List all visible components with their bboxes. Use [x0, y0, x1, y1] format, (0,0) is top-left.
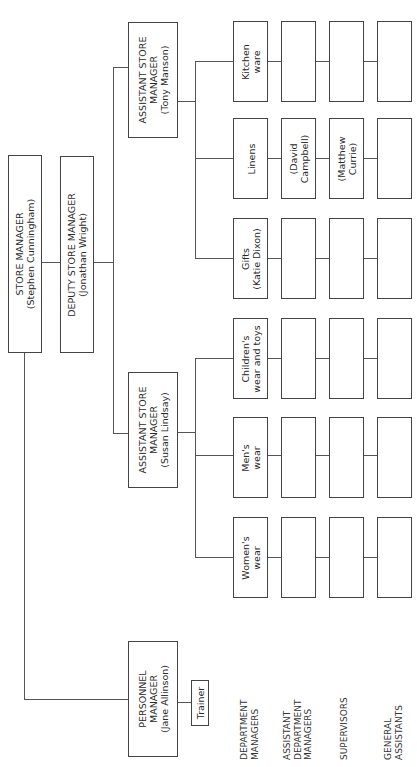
- dept-kitchen-general: [377, 21, 412, 102]
- level-label-line: DEPARTMENT: [239, 700, 250, 760]
- connector-tony-bus: [178, 101, 195, 102]
- susan-line2: MANAGER: [148, 387, 159, 474]
- level-label-line: MANAGERS: [250, 700, 261, 760]
- store-manager-title: STORE MANAGER: [14, 199, 25, 309]
- dept-mens-manager: Men'swear: [233, 417, 268, 498]
- level-label-line: DEPARTMENT: [293, 700, 304, 760]
- supervisor-name-2: Currie): [347, 136, 358, 181]
- dept-label-2: wear: [251, 444, 262, 472]
- dept-gifts-assistant: [281, 218, 316, 299]
- level-label-line: GENERAL: [383, 705, 394, 760]
- branch-linens: [195, 158, 233, 159]
- dept-label-2: (Katie Dixon): [251, 228, 262, 290]
- store-manager-name: (Stephen Cunningham): [25, 199, 36, 309]
- level-label-line: MANAGERS: [303, 700, 314, 760]
- store-manager-box: STORE MANAGER (Stephen Cunningham): [8, 155, 42, 353]
- level-label-department-managers: DEPARTMENT MANAGERS: [239, 700, 260, 760]
- deputy-name: (Jonathan Wright): [77, 193, 88, 317]
- deputy-title: DEPUTY STORE MANAGER: [66, 193, 77, 317]
- dept-gifts-supervisor: [329, 218, 364, 299]
- assistant-name-1: (David: [288, 134, 299, 183]
- dept-childrens-manager: Children'swear and toys: [233, 318, 268, 399]
- connector-store-deputy: [41, 262, 60, 263]
- dept-label-1: Linens: [245, 143, 256, 174]
- branch-mens: [195, 455, 233, 456]
- dept-label-1: Women's: [240, 536, 251, 579]
- level-label-line: SUPERVISORS: [339, 697, 350, 760]
- tony-line2: MANAGER: [148, 37, 159, 124]
- assistant-store-manager-tony-box: ASSISTANT STORE MANAGER (Tony Manson): [128, 22, 178, 138]
- dept-label-2: ware: [251, 44, 262, 80]
- bus-assistant-managers: [113, 67, 114, 434]
- level-label-line: ASSISTANTS: [394, 705, 405, 760]
- connector-bus-susan: [113, 433, 128, 434]
- dept-label-1: Men's: [240, 444, 251, 472]
- connector-store-personnel-h: [24, 699, 128, 700]
- personnel-manager-box: PERSONNEL MANAGER (Jane Allinson): [128, 641, 178, 757]
- dept-womens-manager: Women'swear: [233, 517, 268, 598]
- personnel-name: (Jane Allinson): [159, 665, 170, 733]
- dept-linens-assistant: (DavidCampbell): [281, 118, 316, 199]
- dept-label-1: Gifts: [240, 228, 251, 290]
- connector-deputy-bus: [93, 262, 113, 263]
- level-label-general-assistants: GENERAL ASSISTANTS: [383, 705, 404, 760]
- trainer-box: Trainer: [191, 680, 209, 726]
- dept-label-1: Children's: [240, 325, 251, 392]
- trainer-label: Trainer: [195, 687, 206, 720]
- dept-childrens-assistant: [281, 318, 316, 399]
- dept-childrens-general: [377, 318, 412, 399]
- connector-susan-bus: [178, 432, 195, 433]
- branch-gifts: [195, 258, 233, 259]
- susan-line1: ASSISTANT STORE: [137, 387, 148, 474]
- dept-kitchen-supervisor: [329, 21, 364, 102]
- dept-womens-supervisor: [329, 517, 364, 598]
- dept-mens-assistant: [281, 417, 316, 498]
- dept-linens-supervisor: (MatthewCurrie): [329, 118, 364, 199]
- susan-name: (Susan Lindsay): [159, 387, 170, 474]
- dept-label-2: wear: [251, 536, 262, 579]
- dept-womens-general: [377, 517, 412, 598]
- dept-linens-manager: Linens: [233, 118, 268, 199]
- tony-line1: ASSISTANT STORE: [137, 37, 148, 124]
- connector-bus-tony: [113, 67, 128, 68]
- level-label-supervisors: SUPERVISORS: [339, 697, 350, 760]
- connector-personnel-trainer: [178, 702, 191, 703]
- dept-gifts-manager: Gifts(Katie Dixon): [233, 218, 268, 299]
- bus-susan: [195, 358, 196, 558]
- dept-linens-general: [377, 118, 412, 199]
- dept-label-1: Kitchen: [240, 44, 251, 80]
- bus-tony: [195, 61, 196, 259]
- dept-childrens-supervisor: [329, 318, 364, 399]
- dept-womens-assistant: [281, 517, 316, 598]
- dept-mens-supervisor: [329, 417, 364, 498]
- dept-mens-general: [377, 417, 412, 498]
- personnel-line2: MANAGER: [148, 665, 159, 733]
- dept-gifts-general: [377, 218, 412, 299]
- assistant-store-manager-susan-box: ASSISTANT STORE MANAGER (Susan Lindsay): [128, 372, 178, 488]
- branch-kitchen: [195, 61, 233, 62]
- dept-kitchen-manager: Kitchenware: [233, 21, 268, 102]
- deputy-store-manager-box: DEPUTY STORE MANAGER (Jonathan Wright): [60, 156, 94, 353]
- tony-name: (Tony Manson): [159, 37, 170, 124]
- branch-childrens: [195, 358, 233, 359]
- dept-kitchen-assistant: [281, 21, 316, 102]
- assistant-name-2: Campbell): [299, 134, 310, 183]
- level-label-line: ASSISTANT: [282, 700, 293, 760]
- connector-store-personnel-v: [24, 352, 25, 700]
- dept-label-2: wear and toys: [251, 325, 262, 392]
- personnel-line1: PERSONNEL: [137, 665, 148, 733]
- level-label-assistant-department-managers: ASSISTANT DEPARTMENT MANAGERS: [282, 700, 314, 760]
- supervisor-name-1: (Matthew: [336, 136, 347, 181]
- branch-womens: [195, 557, 233, 558]
